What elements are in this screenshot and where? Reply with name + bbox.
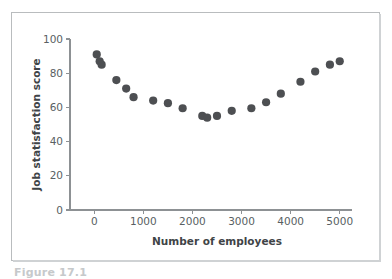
data-point <box>164 99 172 107</box>
data-point <box>179 104 187 112</box>
ticks-group <box>66 39 340 214</box>
data-point <box>98 61 106 69</box>
data-point <box>203 114 211 122</box>
figure-caption: Figure 17.1 <box>14 266 214 279</box>
x-tick-label: 5000 <box>326 215 353 227</box>
y-tick-label: 20 <box>50 169 63 181</box>
data-point <box>149 96 157 104</box>
x-tick-label: 3000 <box>228 215 255 227</box>
y-tick-label: 80 <box>50 67 63 79</box>
data-point <box>262 98 270 106</box>
data-point <box>213 112 221 120</box>
y-axis-title: Job statisfaction score <box>30 58 42 191</box>
data-point <box>326 61 334 69</box>
data-points-group <box>93 50 344 121</box>
data-point <box>228 107 236 115</box>
y-tick-label: 0 <box>56 204 63 216</box>
scatter-plot: 020406080100010002000300040005000 Number… <box>12 13 379 260</box>
x-tick-label: 4000 <box>277 215 304 227</box>
x-tick-label: 0 <box>91 215 98 227</box>
x-tick-label: 1000 <box>130 215 157 227</box>
data-point <box>311 67 319 75</box>
y-tick-label: 60 <box>50 101 63 113</box>
data-point <box>277 90 285 98</box>
axes-group <box>70 39 352 210</box>
data-point <box>112 76 120 84</box>
x-axis-title: Number of employees <box>152 235 282 247</box>
data-point <box>296 78 304 86</box>
data-point <box>336 57 344 65</box>
data-point <box>129 93 137 101</box>
y-tick-label: 40 <box>50 135 63 147</box>
data-point <box>247 104 255 112</box>
figure-root: 020406080100010002000300040005000 Number… <box>0 0 392 279</box>
chart-panel: 020406080100010002000300040005000 Number… <box>11 12 380 261</box>
y-tick-label: 100 <box>43 33 63 45</box>
tick-labels-group: 020406080100010002000300040005000 <box>43 33 353 227</box>
data-point <box>122 84 130 92</box>
x-tick-label: 2000 <box>179 215 206 227</box>
